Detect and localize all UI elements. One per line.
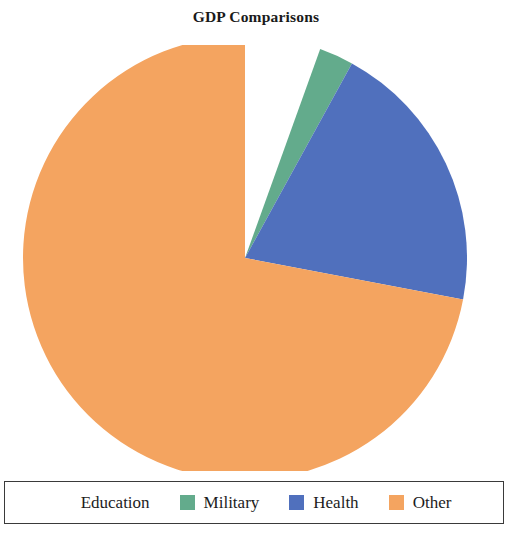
legend-label-military: Military	[204, 493, 260, 513]
chart-title: GDP Comparisons	[0, 8, 512, 26]
legend-swatch-military	[180, 495, 195, 510]
legend-entry-military[interactable]: Military	[180, 493, 290, 513]
legend-label-other: Other	[413, 493, 452, 513]
pie-slices-group	[23, 45, 467, 471]
legend-entry-health[interactable]: Health	[289, 493, 388, 513]
legend-entry-education[interactable]: Education	[57, 493, 180, 513]
legend-label-health: Health	[313, 493, 358, 513]
legend-swatch-education	[57, 495, 72, 510]
pie-chart-figure: GDP Comparisons EducationMilitaryHealthO…	[0, 0, 512, 545]
legend-label-education: Education	[81, 493, 150, 513]
pie-plot-area	[22, 45, 468, 471]
legend-entry-other[interactable]: Other	[389, 493, 452, 513]
pie-svg	[22, 45, 468, 471]
legend-items: EducationMilitaryHealthOther	[57, 493, 452, 513]
legend-swatch-health	[289, 495, 304, 510]
legend-swatch-other	[389, 495, 404, 510]
chart-legend: EducationMilitaryHealthOther	[4, 481, 504, 524]
